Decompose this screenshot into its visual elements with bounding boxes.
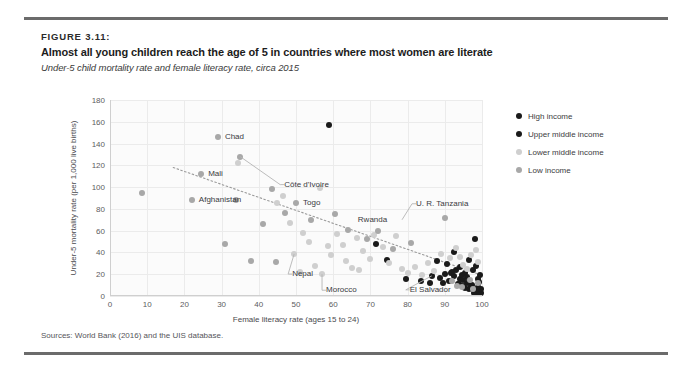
gridline-vertical [370,100,371,296]
data-point [291,251,297,257]
figure-title: Almost all young children reach the age … [41,46,493,58]
x-axis-label: Female literacy rate (ages 15 to 24) [110,315,482,324]
data-point [274,200,280,206]
data-point [453,245,459,251]
y-tick-label: 180 [92,96,105,105]
data-point [375,228,381,234]
data-point [360,248,366,254]
data-point [260,221,266,227]
data-point [326,122,332,128]
data-point [293,200,299,206]
x-tick-label: 50 [292,300,301,309]
y-tick-label: 60 [96,226,105,235]
data-point [431,268,437,274]
legend-swatch-icon [516,149,522,155]
data-point [189,197,195,203]
data-point [442,271,448,277]
data-point [473,247,479,253]
x-tick-label: 20 [180,300,189,309]
x-tick-label: 100 [475,300,488,309]
figure-number: FIGURE 3.11: [41,31,110,42]
data-point [475,259,481,265]
gridline-vertical [408,100,409,296]
data-point [345,227,351,233]
data-point [405,270,411,276]
data-point [367,256,373,262]
data-point [380,244,386,250]
data-point [287,220,293,226]
legend-item-label: Upper middle income [528,130,604,139]
point-annotation: Togo [303,198,320,207]
gridline-vertical [147,100,148,296]
scatter-plot: 0204060801001201401601800102030405060708… [110,100,482,296]
x-tick-label: 30 [217,300,226,309]
figure-subtitle: Under-5 child mortality rate and female … [41,62,299,73]
data-point [418,278,424,284]
data-point [412,264,418,270]
gridline-vertical [259,100,260,296]
data-point [349,265,355,271]
legend-item-label: Lower middle income [528,148,604,157]
data-point [282,210,288,216]
legend-item-high-income[interactable]: High income [516,108,604,124]
point-annotation: Afghanistan [199,195,241,204]
data-point [449,269,455,275]
data-point [373,241,379,247]
data-point [308,217,314,223]
point-annotation: Mali [208,169,223,178]
legend-item-lower-middle-income[interactable]: Lower middle income [516,144,604,160]
data-point [470,267,476,273]
data-point [356,267,362,273]
legend-item-low-income[interactable]: Low income [516,162,604,178]
y-tick-label: 80 [96,204,105,213]
y-tick-label: 140 [92,139,105,148]
point-annotation: Côte d'Ivoire [284,180,329,189]
gridline-vertical [482,100,483,296]
legend-item-upper-middle-income[interactable]: Upper middle income [516,126,604,142]
data-point [390,246,396,252]
data-point [457,254,463,260]
bottom-rule [24,352,668,355]
data-point [442,215,448,221]
point-annotation: Nepal [292,269,313,278]
gridline-vertical [333,100,334,296]
x-tick-label: 80 [403,300,412,309]
data-point [215,134,221,140]
data-point [325,243,331,249]
data-point [470,286,476,292]
data-point [354,235,360,241]
data-point [419,272,425,278]
y-tick-label: 0 [101,292,105,301]
gridline-vertical [184,100,185,296]
data-point [269,186,275,192]
data-point [454,283,460,289]
x-axis-line [110,295,482,296]
data-point [319,271,325,277]
y-tick-label: 40 [96,248,105,257]
data-point [434,258,440,264]
x-tick-label: 60 [329,300,338,309]
data-point [438,251,444,257]
data-point [393,233,399,239]
data-point [280,193,286,199]
data-point [300,230,306,236]
data-point [343,258,349,264]
x-tick-label: 40 [254,300,263,309]
data-point [425,260,431,266]
x-tick-label: 10 [143,300,152,309]
data-point [237,154,243,160]
data-point [475,280,481,286]
data-point [444,261,450,267]
point-annotation: U. R. Tanzania [416,199,468,208]
y-tick-label: 20 [96,270,105,279]
legend-item-label: Low income [528,166,571,175]
x-tick-label: 70 [366,300,375,309]
gridline-horizontal [110,296,482,297]
data-point [222,241,228,247]
legend-swatch-icon [516,167,522,173]
y-tick-label: 100 [92,183,105,192]
data-point [312,263,318,269]
figure-source: Sources: World Bank (2016) and the UIS d… [41,331,223,340]
data-point [340,242,346,248]
data-point [364,236,370,242]
